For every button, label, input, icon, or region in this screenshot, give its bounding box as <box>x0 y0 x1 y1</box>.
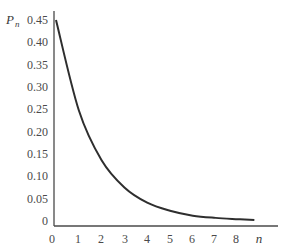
x-tick-label: 0 <box>49 232 55 246</box>
chart: 00.050.100.150.200.250.300.350.400.45 01… <box>0 0 292 249</box>
y-tick-label: 0.25 <box>27 102 48 116</box>
y-tick-label: 0.35 <box>27 58 48 72</box>
y-tick-label: 0 <box>42 214 48 228</box>
y-tick-label: 0.30 <box>27 80 48 94</box>
y-tick-label: 0.05 <box>27 192 48 206</box>
x-tick-label: 1 <box>75 232 81 246</box>
x-axis-ticks: 012345678 <box>49 232 239 246</box>
y-axis-label: Pn <box>5 12 20 29</box>
x-tick-label: 3 <box>122 232 128 246</box>
x-tick-label: 5 <box>167 232 173 246</box>
x-tick-label: 6 <box>189 232 195 246</box>
x-tick-label: 7 <box>211 232 217 246</box>
y-tick-label: 0.40 <box>27 35 48 49</box>
x-axis-label: n <box>256 231 263 246</box>
x-tick-label: 2 <box>98 232 104 246</box>
y-tick-label: 0.45 <box>27 13 48 27</box>
y-axis-ticks: 00.050.100.150.200.250.300.350.400.45 <box>27 13 48 228</box>
x-tick-label: 8 <box>233 232 239 246</box>
y-tick-label: 0.20 <box>27 125 48 139</box>
data-line <box>56 20 254 220</box>
y-tick-label: 0.15 <box>27 147 48 161</box>
x-tick-label: 4 <box>144 232 150 246</box>
y-tick-label: 0.10 <box>27 169 48 183</box>
